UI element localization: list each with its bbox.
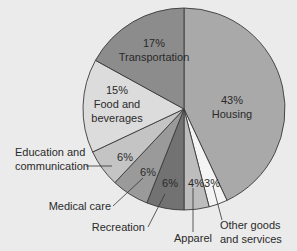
housing-label: Housing: [212, 108, 252, 120]
recreation-label: Recreation: [92, 221, 145, 233]
apparel-pct: 4%: [188, 177, 204, 189]
food-label-1: Food and: [94, 98, 140, 110]
education-pct: 6%: [117, 151, 133, 163]
other-label-2: and services: [220, 233, 282, 245]
transport-label: Transportation: [119, 51, 190, 63]
medical-pct: 6%: [140, 166, 156, 178]
recreation-pct: 6%: [162, 177, 178, 189]
education-label-2: communication: [15, 160, 89, 172]
transport-pct: 17%: [143, 37, 165, 49]
food-label-2: beverages: [91, 112, 143, 124]
food-pct: 15%: [106, 84, 128, 96]
housing-pct: 43%: [221, 94, 243, 106]
other-label-1: Other goods: [220, 219, 281, 231]
apparel-label: Apparel: [174, 232, 212, 244]
pie-chart: 43% Housing 17% Transportation 15% Food …: [0, 0, 297, 251]
other-pct: 3%: [204, 177, 220, 189]
education-label-1: Education and: [15, 146, 85, 158]
medical-label: Medical care: [49, 200, 111, 212]
